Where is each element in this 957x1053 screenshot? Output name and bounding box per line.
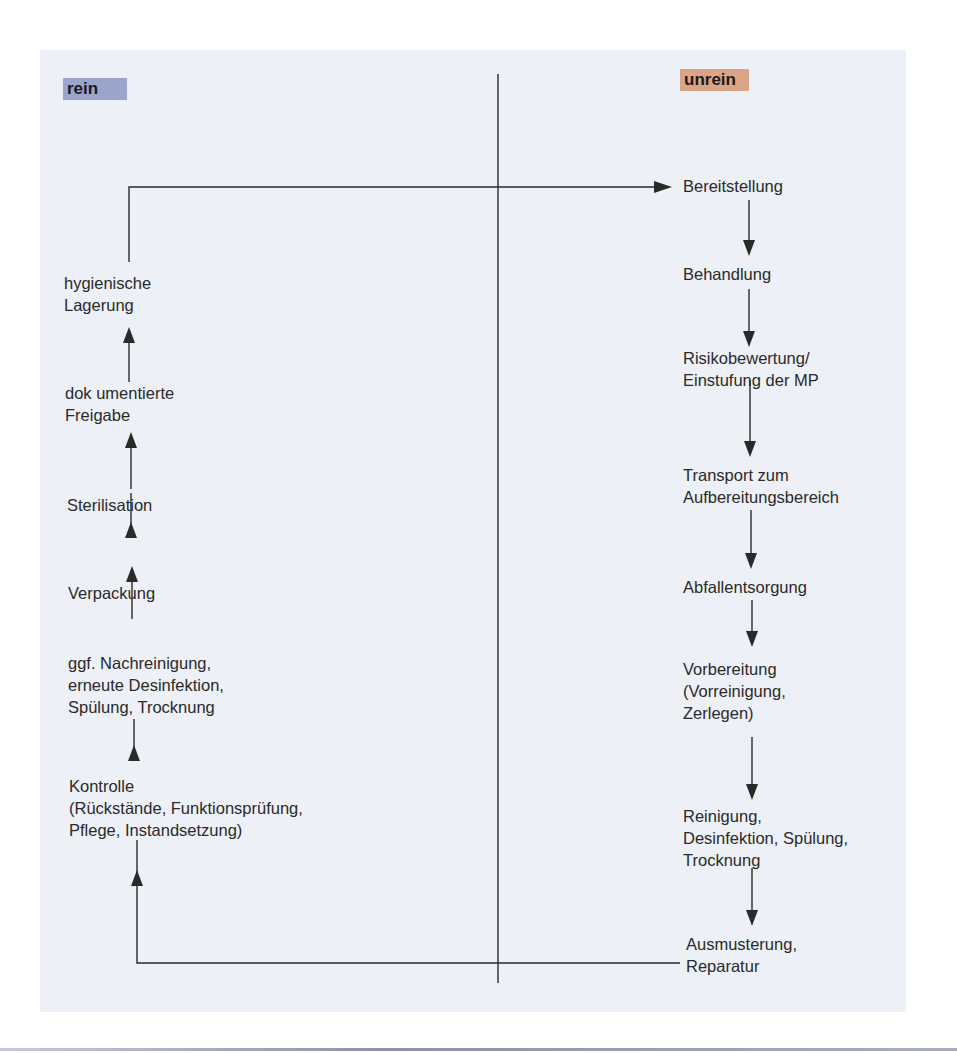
step-kontrolle: Kontrolle (Rückstände, Funktionsprüfung,… [69, 775, 303, 841]
step-behandlung: Behandlung [683, 263, 771, 285]
arrow-down-icon [745, 553, 757, 569]
step-abfallentsorgung: Abfallentsorgung [683, 576, 807, 598]
step-sterilisation: Sterilisation [67, 494, 152, 516]
step-ausmusterung: Ausmusterung, Reparatur [686, 933, 797, 977]
arrow-up-icon [123, 327, 135, 343]
step-nachreinigung: ggf. Nachreinigung, erneute Desinfektion… [68, 652, 224, 718]
arrow-down-icon [744, 441, 756, 457]
arrow-down-icon [746, 784, 758, 800]
arrow-right-icon [654, 181, 672, 193]
arrow-up-icon [126, 566, 138, 582]
step-freigabe: dok umentierte Freigabe [65, 382, 174, 426]
arrow-down-icon [746, 910, 758, 926]
bottom-rule [0, 1048, 957, 1051]
arrow-down-icon [743, 331, 755, 347]
step-risikobewertung: Risikobewertung/ Einstufung der MP [683, 347, 819, 391]
step-transport: Transport zum Aufbereitungsbereich [683, 464, 839, 508]
flow-connectors [0, 0, 957, 1053]
arrow-down-icon [743, 240, 755, 256]
step-bereitstellung: Bereitstellung [683, 175, 783, 197]
step-reinigung: Reinigung, Desinfektion, Spülung, Trockn… [683, 805, 848, 871]
arrow-up-icon [125, 432, 137, 448]
arrow-down-icon [746, 631, 758, 647]
step-vorbereitung: Vorbereitung (Vorreinigung, Zerlegen) [683, 658, 786, 724]
step-lagerung: hygienische Lagerung [64, 272, 151, 316]
step-verpackung: Verpackung [68, 582, 155, 604]
